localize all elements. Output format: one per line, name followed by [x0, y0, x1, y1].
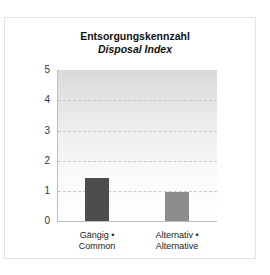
x-label-alternative-line1: Alternativ • — [137, 230, 217, 241]
x-label-alternative-line2: Alternative — [137, 241, 217, 252]
y-tick-2: 2 — [36, 155, 50, 166]
y-tick-1: 1 — [36, 185, 50, 196]
x-label-common-line1: Gängig • — [57, 230, 137, 241]
y-axis — [57, 70, 58, 222]
bar-common — [85, 178, 109, 221]
x-label-alternative: Alternativ • Alternative — [137, 230, 217, 252]
chart-title: Entsorgungskennzahl — [0, 30, 270, 42]
gridline-3 — [58, 131, 217, 132]
y-tick-3: 3 — [36, 125, 50, 136]
bar-alternative — [165, 192, 189, 221]
chart-subtitle: Disposal Index — [0, 43, 270, 55]
x-label-common-line2: Common — [57, 241, 137, 252]
x-axis — [57, 221, 217, 222]
gridline-2 — [58, 161, 217, 162]
y-tick-4: 4 — [36, 94, 50, 105]
gridline-1 — [58, 191, 217, 192]
gridline-4 — [58, 100, 217, 101]
y-tick-5: 5 — [36, 64, 50, 75]
y-tick-0: 0 — [36, 215, 50, 226]
plot-area — [58, 70, 217, 221]
x-label-common: Gängig • Common — [57, 230, 137, 252]
